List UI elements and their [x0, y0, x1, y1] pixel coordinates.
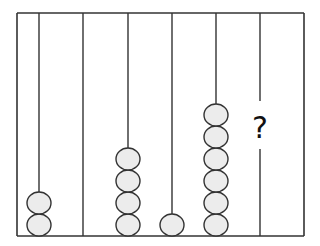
bead [204, 104, 228, 126]
bead [204, 192, 228, 214]
bead [116, 192, 140, 214]
abacus-labels: ? [252, 110, 268, 145]
question-mark: ? [252, 110, 268, 145]
bead [160, 214, 184, 236]
bead [116, 148, 140, 170]
bead [27, 214, 51, 236]
bead [116, 170, 140, 192]
bead [204, 126, 228, 148]
bead [204, 148, 228, 170]
bead [204, 170, 228, 192]
abacus-diagram: ? [0, 0, 320, 246]
bead [116, 214, 140, 236]
bead [204, 214, 228, 236]
bead [27, 192, 51, 214]
